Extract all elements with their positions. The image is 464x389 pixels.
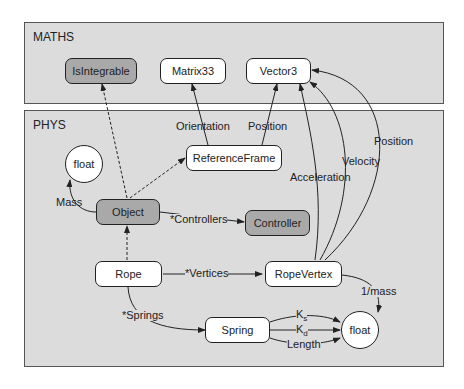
node-float-mass[interactable]: float: [65, 145, 103, 183]
package-maths-title: MATHS: [33, 30, 74, 44]
label-velocity: Velocity: [342, 156, 380, 167]
label-length: Length: [287, 339, 321, 350]
label-kd: Kd: [296, 324, 308, 338]
node-spring[interactable]: Spring: [205, 317, 270, 343]
label-orientation: Orientation: [176, 121, 230, 132]
node-rope[interactable]: Rope: [95, 261, 162, 287]
node-object[interactable]: Object: [96, 199, 160, 225]
node-float-spring[interactable]: float: [341, 311, 379, 349]
node-controller[interactable]: Controller: [245, 210, 310, 236]
label-one-over-mass: 1/mass: [361, 286, 396, 297]
node-ropevertex[interactable]: RopeVertex: [265, 261, 342, 287]
node-matrix33[interactable]: Matrix33: [160, 58, 226, 84]
node-isintegrable[interactable]: IsIntegrable: [65, 58, 137, 84]
package-phys-title: PHYS: [33, 118, 66, 132]
label-mass: Mass: [56, 197, 82, 208]
label-ks: Ks: [296, 309, 307, 323]
node-referenceframe[interactable]: ReferenceFrame: [186, 145, 282, 171]
label-position-rf: Position: [248, 121, 287, 132]
label-controllers: *Controllers: [170, 214, 227, 225]
node-vector3[interactable]: Vector3: [246, 58, 311, 84]
label-position-rv: Position: [374, 136, 413, 147]
label-vertices: *Vertices: [185, 268, 228, 279]
label-springs: *Springs: [122, 310, 164, 321]
label-acceleration: Acceleration: [290, 172, 351, 183]
